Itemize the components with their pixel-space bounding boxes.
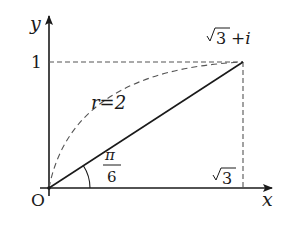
angle-arc [83, 166, 90, 188]
x-axis-label: x [262, 188, 273, 210]
origin-point [47, 186, 51, 190]
angle-denominator: 6 [107, 168, 117, 186]
y-tick-label: 1 [31, 52, 42, 72]
modulus-label: r=2 [91, 92, 126, 113]
complex-plane-diagram: y x O 1 3 3 +i r=2 π 6 [0, 0, 290, 226]
angle-numerator: π [104, 146, 116, 164]
x-tick-label: 3 [213, 168, 236, 188]
point-label-rest: +i [231, 28, 251, 48]
x-tick-radicand: 3 [222, 169, 232, 188]
origin-label: O [31, 190, 45, 210]
angle-label: π 6 [103, 146, 121, 186]
point-label-radicand: 3 [216, 29, 226, 48]
point-label: 3 +i [207, 28, 251, 48]
y-axis-label: y [29, 12, 41, 34]
